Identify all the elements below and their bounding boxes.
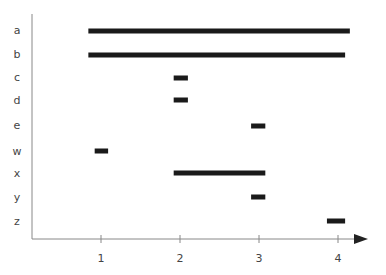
x-tick-label: 1 xyxy=(98,252,105,265)
y-category-label: w xyxy=(13,145,22,158)
y-category-label: x xyxy=(14,167,21,180)
interval-bar-d xyxy=(174,98,188,103)
interval-bar-w xyxy=(95,149,108,154)
interval-bar-e xyxy=(251,124,265,129)
bars xyxy=(88,29,349,224)
interval-bar-a xyxy=(88,29,349,34)
y-category-label: y xyxy=(14,191,21,204)
y-category-label: d xyxy=(14,94,21,107)
y-category-label: a xyxy=(14,24,21,37)
y-category-label: z xyxy=(14,215,20,228)
interval-bar-b xyxy=(88,53,345,58)
interval-bar-x xyxy=(174,171,266,176)
x-tick-label: 4 xyxy=(335,252,342,265)
interval-bar-y xyxy=(251,195,265,200)
x-axis-arrow-icon xyxy=(354,234,368,244)
interval-bar-z xyxy=(327,219,345,224)
y-category-label: c xyxy=(14,71,20,84)
x-tick-label: 3 xyxy=(256,252,263,265)
y-category-label: b xyxy=(14,48,21,61)
interval-bar-c xyxy=(174,76,188,81)
y-labels: abcdewxyz xyxy=(13,24,22,228)
x-tick-label: 2 xyxy=(177,252,184,265)
interval-chart: 1234 abcdewxyz xyxy=(0,0,386,275)
y-category-label: e xyxy=(14,119,21,132)
